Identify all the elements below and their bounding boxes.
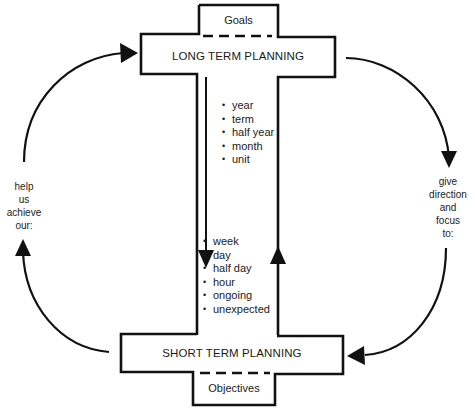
right-upper-arrowhead xyxy=(441,151,457,168)
left-upper-arrowhead xyxy=(120,43,138,63)
left-cycle-line: our: xyxy=(2,219,46,232)
right-cycle-label: give direction and focus to: xyxy=(421,175,475,240)
left-upper-arc xyxy=(24,53,123,162)
list-item: hour xyxy=(203,276,270,290)
list-item: ongoing xyxy=(203,289,270,303)
long-term-periods-list: year term half year month unit xyxy=(222,99,274,167)
list-item: half day xyxy=(203,262,270,276)
short-term-periods-list: week day half day hour ongoing unexpecte… xyxy=(203,235,270,316)
list-item: term xyxy=(222,113,274,127)
list-item: day xyxy=(203,249,270,263)
right-cycle-line: give xyxy=(421,175,475,188)
right-cycle-line: and xyxy=(421,201,475,214)
long-term-planning-title: LONG TERM PLANNING xyxy=(141,50,335,62)
right-lower-arrowhead xyxy=(347,346,365,365)
list-item: half year xyxy=(222,126,274,140)
right-upper-arc xyxy=(346,58,449,158)
list-item: year xyxy=(222,99,274,113)
up-arrow-head xyxy=(270,246,286,264)
list-item: unit xyxy=(222,153,274,167)
left-cycle-line: us xyxy=(2,193,46,206)
list-item: unexpected xyxy=(203,303,270,317)
list-item: week xyxy=(203,235,270,249)
left-lower-arrowhead xyxy=(15,239,31,256)
left-lower-arc xyxy=(23,252,109,352)
left-cycle-label: help us achieve our: xyxy=(2,180,46,232)
left-cycle-line: achieve xyxy=(2,206,46,219)
goals-label: Goals xyxy=(199,14,278,26)
list-item: month xyxy=(222,140,274,154)
objectives-label: Objectives xyxy=(193,382,275,394)
short-term-block-outline xyxy=(121,334,343,405)
right-cycle-line: focus xyxy=(421,214,475,227)
left-cycle-line: help xyxy=(2,180,46,193)
right-lower-arc xyxy=(365,248,446,355)
short-term-planning-title: SHORT TERM PLANNING xyxy=(121,347,343,359)
right-cycle-line: direction xyxy=(421,188,475,201)
right-cycle-line: to: xyxy=(421,227,475,240)
